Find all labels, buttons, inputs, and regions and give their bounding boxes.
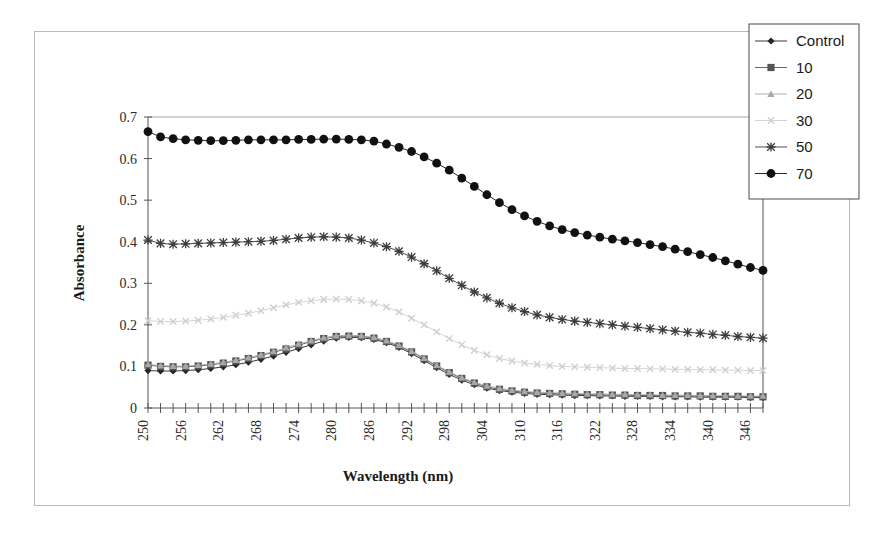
y-tick-label: 0.5	[120, 193, 138, 208]
marker-circle	[457, 174, 466, 183]
marker-circle	[545, 222, 554, 231]
marker-circle	[382, 140, 391, 149]
marker-asterisk	[407, 253, 416, 262]
x-tick-label: 334	[663, 420, 678, 441]
marker-circle	[583, 231, 592, 240]
legend[interactable]: Control1020305070	[749, 24, 859, 199]
marker-cross	[270, 305, 276, 311]
marker-asterisk	[244, 237, 253, 246]
series-line	[148, 337, 763, 397]
legend-label: 30	[796, 112, 813, 129]
marker-asterisk	[620, 322, 629, 331]
marker-circle	[282, 135, 291, 144]
legend-label: Control	[796, 32, 844, 49]
marker-asterisk	[143, 235, 152, 244]
marker-circle	[721, 256, 730, 265]
marker-circle	[508, 205, 517, 214]
x-tick-label: 262	[211, 420, 226, 441]
series-line	[148, 336, 763, 397]
marker-asterisk	[307, 233, 316, 242]
marker-circle	[608, 235, 617, 244]
marker-circle	[244, 135, 253, 144]
marker-circle	[370, 137, 379, 146]
x-tick-label: 256	[174, 420, 189, 441]
marker-circle	[332, 135, 341, 144]
marker-asterisk	[256, 237, 265, 246]
marker-circle	[708, 253, 717, 262]
marker-circle	[495, 198, 504, 207]
x-tick-label: 292	[400, 420, 415, 441]
series-70	[144, 127, 768, 275]
marker-circle	[570, 228, 579, 237]
marker-asterisk	[369, 238, 378, 247]
y-tick-label: 0.1	[120, 359, 138, 374]
marker-circle	[470, 182, 479, 191]
x-tick-label: 346	[738, 420, 753, 441]
marker-circle	[257, 135, 266, 144]
marker-circle	[144, 127, 153, 136]
x-tick-label: 268	[249, 420, 264, 441]
x-tick-label: 286	[362, 420, 377, 441]
y-tick-label: 0.7	[120, 110, 138, 125]
marker-asterisk	[733, 332, 742, 341]
marker-circle	[194, 136, 203, 145]
marker-asterisk	[583, 318, 592, 327]
marker-asterisk	[294, 233, 303, 242]
marker-asterisk	[282, 235, 291, 244]
marker-asterisk	[683, 328, 692, 337]
marker-asterisk	[344, 233, 353, 242]
marker-asterisk	[445, 274, 454, 283]
x-tick-label: 340	[701, 420, 716, 441]
marker-circle	[269, 135, 278, 144]
y-tick-label: 0	[130, 401, 137, 416]
marker-asterisk	[332, 233, 341, 242]
marker-asterisk	[357, 235, 366, 244]
x-tick-label: 274	[287, 420, 302, 441]
marker-asterisk	[482, 293, 491, 302]
legend-label: 20	[796, 85, 813, 102]
marker-asterisk	[570, 317, 579, 326]
marker-circle	[767, 169, 776, 178]
marker-asterisk	[608, 320, 617, 329]
marker-circle	[595, 233, 604, 242]
marker-asterisk	[219, 238, 228, 247]
marker-asterisk	[495, 299, 504, 308]
marker-asterisk	[545, 313, 554, 322]
marker-circle	[633, 238, 642, 247]
marker-asterisk	[382, 242, 391, 251]
marker-circle	[683, 247, 692, 256]
legend-label: 70	[796, 165, 813, 182]
marker-asterisk	[633, 323, 642, 332]
x-tick-label: 316	[550, 420, 565, 441]
marker-circle	[696, 250, 705, 259]
marker-asterisk	[766, 142, 775, 151]
marker-circle	[395, 143, 404, 152]
x-tick-label: 280	[324, 420, 339, 441]
marker-circle	[558, 225, 567, 234]
y-tick-label: 0.3	[120, 276, 138, 291]
legend-label: 50	[796, 138, 813, 155]
marker-asterisk	[194, 239, 203, 248]
marker-asterisk	[721, 331, 730, 340]
absorbance-spectrum-chart: 2502562622682742802862922983043103163223…	[0, 0, 884, 535]
series-line	[148, 335, 763, 396]
x-tick-label: 310	[513, 420, 528, 441]
marker-square	[767, 64, 774, 71]
marker-cross	[383, 304, 389, 310]
x-tick-label: 304	[475, 420, 490, 441]
marker-circle	[746, 263, 755, 272]
marker-circle	[357, 135, 366, 144]
marker-asterisk	[231, 238, 240, 247]
y-tick-label: 0.6	[120, 152, 138, 167]
x-tick-label: 322	[588, 420, 603, 441]
marker-circle	[307, 135, 316, 144]
y-axis-title: Absorbance	[71, 224, 87, 301]
marker-cross	[396, 309, 402, 315]
marker-circle	[621, 236, 630, 245]
marker-asterisk	[457, 281, 466, 290]
marker-asterisk	[156, 239, 165, 248]
marker-asterisk	[181, 239, 190, 248]
marker-asterisk	[206, 238, 215, 247]
marker-circle	[432, 159, 441, 168]
marker-asterisk	[658, 325, 667, 334]
